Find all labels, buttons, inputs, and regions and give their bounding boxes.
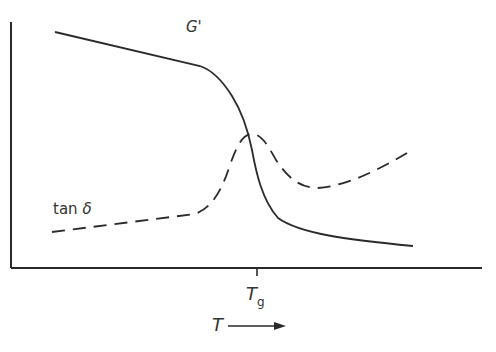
- x-axis-label: T: [212, 314, 223, 335]
- tan-delta-label: tan δ: [53, 200, 92, 218]
- tan-delta-symbol: δ: [82, 200, 91, 218]
- t-arrow-head-icon: [274, 322, 286, 330]
- g-prime-curve: [55, 32, 413, 246]
- tg-sub: g: [257, 295, 265, 309]
- tan-delta-curve: [52, 134, 407, 232]
- g-prime-label: G': [186, 18, 202, 36]
- tan-delta-prefix: tan: [53, 200, 78, 218]
- tg-tick-label: Tg: [246, 283, 265, 309]
- tg-main: T: [246, 283, 257, 304]
